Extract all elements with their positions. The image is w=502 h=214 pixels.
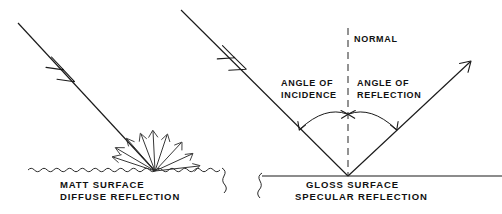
- matt-surface-line: [28, 168, 220, 171]
- angle-of-incidence-arc: [298, 111, 348, 131]
- matt-incident-ray: [18, 23, 155, 171]
- gloss-surface-panel: NORMAL ANGLE OF INCIDENCE ANGLE OF REFLE…: [181, 10, 502, 202]
- matt-surface-panel: MATT SURFACE DIFFUSE REFLECTION: [18, 23, 226, 202]
- angle-of-incidence-label-line1: ANGLE OF: [281, 78, 333, 88]
- matt-incident-arrowhead-icon: [46, 57, 75, 82]
- gloss-surface-break-symbol: [258, 173, 262, 198]
- diagram-canvas: MATT SURFACE DIFFUSE REFLECTION: [0, 0, 502, 214]
- gloss-surface-caption-line1: GLOSS SURFACE: [306, 179, 399, 190]
- matt-surface-caption-line2: DIFFUSE REFLECTION: [60, 191, 180, 202]
- matt-surface-caption-line1: MATT SURFACE: [60, 179, 145, 190]
- angle-of-reflection-label-line1: ANGLE OF: [357, 78, 409, 88]
- gloss-incident-arrowhead-icon: [217, 46, 246, 71]
- normal-label: NORMAL: [354, 34, 398, 44]
- angle-of-reflection-arc: [348, 111, 398, 131]
- angle-of-incidence-label-line2: INCIDENCE: [281, 90, 337, 100]
- matt-surface-break-symbol: [222, 168, 226, 193]
- diffuse-ray-fan: [112, 130, 200, 171]
- angle-of-reflection-label-line2: REFLECTION: [357, 90, 422, 100]
- gloss-surface-caption-line2: SPECULAR REFLECTION: [295, 191, 428, 202]
- reflection-diagram: MATT SURFACE DIFFUSE REFLECTION: [0, 0, 502, 214]
